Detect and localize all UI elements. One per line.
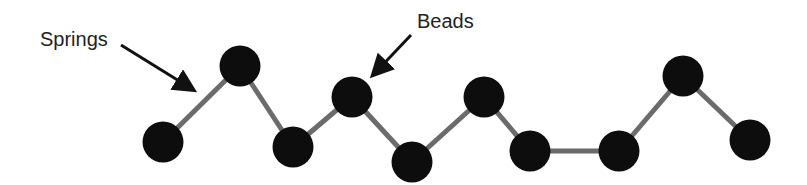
beads-arrow <box>374 35 411 74</box>
bead <box>464 77 505 118</box>
bead <box>730 120 771 161</box>
bead <box>332 77 373 118</box>
bead <box>273 127 314 168</box>
springs-label: Springs <box>40 28 108 50</box>
bead <box>143 122 184 163</box>
beads-label: Beads <box>417 10 474 32</box>
springs-arrow <box>121 45 192 89</box>
bead <box>392 142 433 183</box>
bead <box>599 131 640 172</box>
beads <box>143 46 771 183</box>
bead <box>663 56 704 97</box>
bead-spring-diagram: Springs Beads <box>0 0 807 185</box>
bead <box>510 131 551 172</box>
bead <box>220 46 261 87</box>
